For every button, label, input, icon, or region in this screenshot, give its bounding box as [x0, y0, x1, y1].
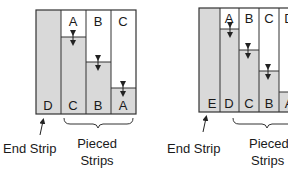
bottom-letter: D	[224, 96, 233, 111]
end-strip-arrow-icon	[203, 118, 206, 132]
pieced-label: Pieced	[249, 136, 288, 151]
top-letter: B	[94, 14, 103, 29]
top-letter: A	[69, 14, 78, 29]
bottom-letter: A	[119, 98, 128, 113]
right-diagram: E A B C D D C B A End Strip Pieced Strip…	[167, 8, 288, 168]
brace-icon	[64, 118, 133, 128]
end-strip-label: End Strip	[3, 141, 56, 156]
pieced-label: Pieced	[77, 136, 117, 151]
bottom-letter: A	[285, 96, 288, 111]
strips-label: Strips	[251, 153, 285, 168]
bottom-letter: B	[265, 96, 274, 111]
top-letter: A	[225, 11, 234, 26]
end-strip-letter: D	[43, 98, 52, 113]
top-letter: D	[284, 11, 288, 26]
top-letter: B	[245, 11, 254, 26]
strips-label: Strips	[80, 153, 114, 168]
brace-icon	[233, 118, 288, 128]
strip-piecing-diagram: D A B C C B A End Strip Pieced Strips	[0, 0, 288, 181]
bottom-letter: B	[94, 98, 103, 113]
top-letter: C	[118, 14, 127, 29]
bottom-letter: C	[68, 98, 77, 113]
end-strip-letter: E	[208, 96, 217, 111]
end-strip-arrow-icon	[40, 121, 43, 135]
bottom-letter: C	[244, 96, 253, 111]
end-strip-label: End Strip	[167, 141, 220, 156]
left-diagram: D A B C C B A End Strip Pieced Strips	[3, 10, 136, 168]
top-letter: C	[264, 11, 273, 26]
